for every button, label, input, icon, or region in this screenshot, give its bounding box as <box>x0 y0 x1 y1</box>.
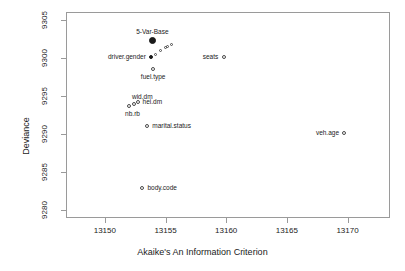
point-label: 5-Var-Base <box>136 29 168 36</box>
x-tick-label: 13170 <box>336 226 358 235</box>
data-point-nb-rb <box>127 104 131 108</box>
data-point-seats <box>222 55 226 59</box>
y-tick-label: 9295 <box>40 87 49 105</box>
x-tick-label: 13150 <box>94 226 116 235</box>
x-tick-label: 13155 <box>154 226 176 235</box>
point-label: seats <box>203 54 219 61</box>
y-tick-label: 9290 <box>40 125 49 143</box>
data-point-driver-gender <box>149 55 153 59</box>
scatter-plot: 1315013155131601316513170 92809285929092… <box>0 0 405 271</box>
x-tick-label: 13165 <box>276 226 298 235</box>
point-label: hei.dm <box>143 99 163 106</box>
plot-panel <box>66 12 390 218</box>
y-tick-mark <box>61 58 66 59</box>
point-label: nb.rb <box>125 111 140 118</box>
data-point-5-var-base <box>149 37 156 44</box>
point-label: marital.status <box>152 123 191 130</box>
y-tick-label: 9300 <box>40 49 49 67</box>
y-tick-mark <box>61 134 66 135</box>
y-tick-mark <box>61 20 66 21</box>
x-tick-mark <box>287 218 288 223</box>
point-label: driver.gender <box>108 54 146 61</box>
data-point <box>159 49 162 52</box>
data-point-hei-dm <box>136 100 140 104</box>
point-label: body.code <box>147 185 177 192</box>
y-tick-mark <box>61 96 66 97</box>
point-label: veh.age <box>316 130 339 137</box>
x-axis-title: Akaike's An Information Criterion <box>0 247 405 257</box>
x-tick-mark <box>105 218 106 223</box>
y-axis-title: Deviance <box>21 66 31 206</box>
y-tick-label: 9285 <box>40 163 49 181</box>
y-tick-mark <box>61 210 66 211</box>
x-tick-mark <box>226 218 227 223</box>
y-tick-mark <box>61 172 66 173</box>
y-tick-label: 9280 <box>40 201 49 219</box>
x-tick-mark <box>166 218 167 223</box>
point-label: fuel.type <box>141 74 166 81</box>
data-point-marital-status <box>145 124 149 128</box>
x-tick-mark <box>348 218 349 223</box>
x-tick-label: 13160 <box>215 226 237 235</box>
y-tick-label: 9305 <box>40 11 49 29</box>
